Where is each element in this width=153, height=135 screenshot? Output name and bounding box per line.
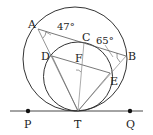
diagram-canvas: A 47° C 65° B D F E P T Q — [0, 0, 153, 135]
label-f: F — [75, 52, 83, 65]
point-q-dot — [128, 109, 132, 113]
angle-arc-a — [43, 32, 46, 39]
angle-arc-f — [76, 70, 81, 72]
label-angle-a: 47° — [57, 21, 75, 32]
label-c: C — [82, 31, 90, 44]
label-d: D — [41, 50, 50, 63]
label-q: Q — [126, 118, 135, 131]
label-e: E — [110, 75, 118, 88]
segment-et — [78, 73, 110, 111]
geometry-diagram: A 47° C 65° B D F E P T Q — [0, 0, 153, 135]
label-a: A — [27, 18, 37, 31]
label-t: T — [74, 118, 82, 131]
point-p-dot — [26, 109, 30, 113]
label-b: B — [128, 50, 136, 63]
label-angle-b: 65° — [96, 35, 114, 46]
angle-pointer-b — [105, 45, 113, 57]
label-p: P — [24, 118, 32, 131]
